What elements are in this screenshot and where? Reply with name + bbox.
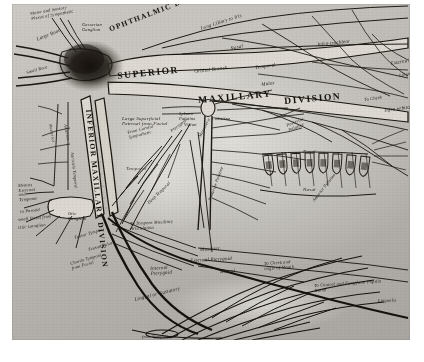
nerve-branch-label: Buccal	[220, 268, 235, 274]
nerve-branch-label: Nasal	[303, 149, 316, 154]
teeth-row	[260, 130, 408, 196]
nerve-branch-label: Otic Ganglion	[68, 212, 86, 221]
nerve-branch-label: Meatus External and Tympanic	[18, 183, 38, 203]
nerve-branch-label: Vidian	[184, 123, 197, 128]
nerve-branch-label: Internal Pterygoid	[150, 264, 172, 276]
tooth	[291, 153, 301, 173]
gasserian-ganglion	[56, 40, 124, 92]
nerve-branch-label: Nasal	[303, 187, 316, 192]
nerve-branch-label: from Sympathetic	[142, 335, 176, 340]
nerve-branch-label: Lingualis	[378, 298, 397, 303]
nerve-branch-label: Temporal	[126, 166, 147, 171]
nerve-branch-label: Palatine	[212, 116, 231, 121]
tooth	[305, 153, 314, 173]
tooth	[319, 153, 328, 173]
nerve-branch-label: Gasserian Ganglion	[82, 23, 102, 32]
scanned-plate-page: OPHTHALMIC DIVISIONSUPERIORMAXILLARYDIVI…	[0, 0, 424, 362]
engraving-plate: OPHTHALMIC DIVISIONSUPERIORMAXILLARYDIVI…	[12, 4, 410, 340]
